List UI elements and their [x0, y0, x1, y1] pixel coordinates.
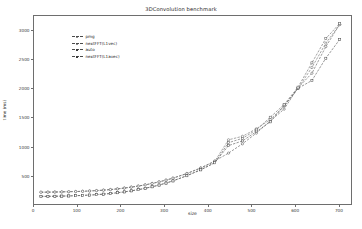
data-point [311, 72, 313, 74]
data-point [255, 129, 257, 131]
data-point [102, 193, 104, 195]
x-tick-label: 100 [73, 208, 81, 213]
data-point [227, 142, 229, 144]
legend-line-icon [72, 56, 83, 57]
data-point [227, 152, 229, 154]
y-tick [31, 30, 33, 31]
data-point [241, 143, 243, 145]
chart-figure: 3DConvolution benchmark time (ms) size p… [0, 0, 362, 229]
data-point [88, 190, 90, 192]
data-point [200, 169, 202, 171]
data-point [144, 184, 146, 186]
legend-line-icon [72, 49, 83, 50]
data-point [325, 46, 327, 48]
data-point [82, 194, 84, 196]
data-point [283, 103, 285, 105]
y-tick [31, 176, 33, 177]
data-point [95, 189, 97, 191]
data-point [47, 195, 49, 197]
data-point [61, 191, 63, 193]
x-axis-label: size [33, 211, 352, 216]
data-point [68, 195, 70, 197]
x-tick-label: 300 [160, 208, 168, 213]
data-point [61, 195, 63, 197]
data-point [241, 137, 243, 139]
data-point [40, 191, 42, 193]
data-point [325, 38, 327, 40]
legend-item: auto [72, 47, 134, 52]
data-point [89, 194, 91, 196]
data-point [214, 162, 216, 164]
y-tick [31, 117, 33, 118]
y-tick [31, 88, 33, 89]
data-point [144, 187, 146, 189]
data-point [241, 140, 243, 142]
plot-area: pmg nextFFT(L1vec) auto nextFFT(L1avec) [33, 15, 352, 205]
y-axis-label: time (ms) [2, 100, 7, 120]
data-point [68, 191, 70, 193]
data-point [339, 38, 341, 40]
data-point [40, 195, 42, 197]
data-point [116, 192, 118, 194]
data-point [95, 194, 97, 196]
data-point [54, 195, 56, 197]
data-point [130, 190, 132, 192]
data-point [311, 66, 313, 68]
y-tick [31, 147, 33, 148]
data-point [123, 191, 125, 193]
data-point [297, 86, 299, 88]
y-tick-label: 1000 [19, 144, 30, 149]
data-point [158, 184, 160, 186]
y-tick-label: 500 [22, 173, 30, 178]
data-point [116, 188, 118, 190]
data-point [325, 57, 327, 59]
data-point [227, 145, 229, 147]
data-point [172, 177, 174, 179]
x-tick-label: 0 [32, 208, 35, 213]
x-tick-label: 500 [247, 208, 255, 213]
data-point [311, 79, 313, 81]
data-point [269, 118, 271, 120]
data-point [269, 116, 271, 118]
data-point [158, 181, 160, 183]
legend-item: nextFFT(L1avec) [72, 54, 134, 59]
legend-line-icon [72, 36, 83, 37]
legend-label: auto [86, 47, 95, 52]
legend-label: nextFFT(L1vec) [86, 41, 117, 46]
data-point [81, 190, 83, 192]
data-point [227, 139, 229, 141]
data-point [109, 192, 111, 194]
legend-label: nextFFT(L1avec) [86, 54, 120, 59]
chart-title: 3DConvolution benchmark [0, 6, 362, 12]
data-point [102, 189, 104, 191]
data-point [165, 179, 167, 181]
data-point [311, 62, 313, 64]
data-point [75, 195, 77, 197]
legend-label: pmg [86, 34, 95, 39]
data-point [269, 121, 271, 123]
data-point [151, 182, 153, 184]
x-tick-label: 400 [204, 208, 212, 213]
data-point [54, 191, 56, 193]
legend-item: nextFFT(L1vec) [72, 41, 134, 46]
y-tick [31, 59, 33, 60]
data-point [165, 182, 167, 184]
y-tick-label: 2000 [19, 86, 30, 91]
y-tick-label: 3000 [19, 27, 30, 32]
data-point [325, 42, 327, 44]
data-point [151, 186, 153, 188]
data-point [283, 108, 285, 110]
y-tick-label: 2500 [19, 56, 30, 61]
chart-legend: pmg nextFFT(L1vec) auto nextFFT(L1avec) [72, 34, 134, 59]
x-tick-label: 600 [291, 208, 299, 213]
data-point [137, 185, 139, 187]
data-point [137, 189, 139, 191]
legend-item: pmg [72, 34, 134, 39]
x-tick-label: 200 [116, 208, 124, 213]
data-point [75, 190, 77, 192]
data-point [339, 22, 341, 24]
series-line [41, 39, 340, 196]
data-point [186, 175, 188, 177]
data-point [172, 180, 174, 182]
x-tick-label: 700 [335, 208, 343, 213]
